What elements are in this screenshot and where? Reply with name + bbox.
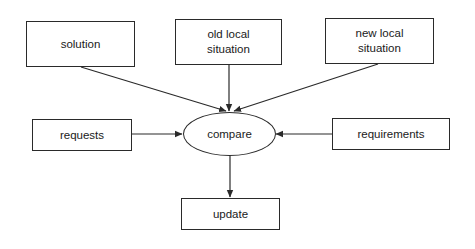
edge-solution-to-compare — [81, 67, 226, 111]
node-solution: solution — [26, 21, 135, 67]
node-old-local-situation: old local situation — [175, 19, 282, 65]
node-new-local-situation: new local situation — [325, 18, 434, 64]
edge-new-local-situation-to-compare — [234, 64, 378, 111]
node-requirements-label: requirements — [357, 127, 424, 142]
node-update: update — [181, 198, 280, 230]
node-requests-label: requests — [60, 128, 104, 143]
node-requirements: requirements — [332, 118, 450, 150]
node-update-label: update — [213, 207, 248, 222]
node-compare: compare — [183, 112, 276, 156]
node-new-local-situation-label: new local situation — [356, 26, 404, 56]
node-compare-label: compare — [207, 127, 252, 142]
node-old-local-situation-label: old local situation — [207, 27, 250, 57]
node-solution-label: solution — [61, 37, 101, 52]
node-requests: requests — [32, 119, 132, 151]
